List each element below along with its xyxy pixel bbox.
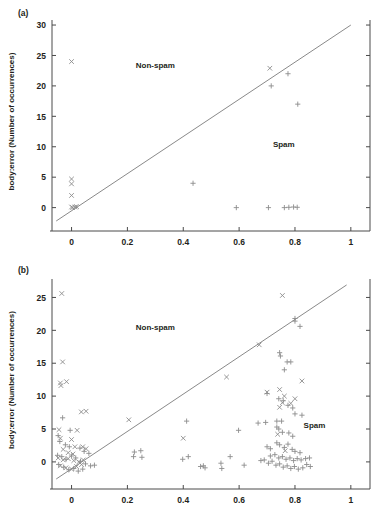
marker-plus bbox=[236, 428, 241, 433]
marker-plus bbox=[292, 411, 297, 416]
marker-plus bbox=[299, 413, 304, 418]
marker-plus bbox=[80, 467, 85, 472]
y-tick-label: 10 bbox=[37, 142, 47, 152]
marker-plus bbox=[278, 353, 283, 358]
scatter-plot-b: 051015202500.20.40.60.81body:error (Numb… bbox=[0, 263, 383, 526]
region-label-non-spam: Non-spam bbox=[136, 61, 175, 70]
marker-plus bbox=[299, 457, 304, 462]
panel-b: (b) 051015202500.20.40.60.81body:error (… bbox=[0, 263, 383, 526]
marker-x bbox=[59, 291, 64, 296]
marker-plus bbox=[68, 428, 73, 433]
x-tick-label: 0.8 bbox=[289, 237, 301, 247]
marker-plus bbox=[264, 391, 269, 396]
marker-plus bbox=[282, 367, 287, 372]
marker-plus bbox=[71, 466, 76, 471]
y-tick-label: 15 bbox=[37, 112, 47, 122]
y-axis-label: body:error (Number of occurrences) bbox=[7, 311, 16, 449]
x-tick-label: 1 bbox=[348, 237, 353, 247]
marker-x bbox=[69, 177, 74, 182]
y-tick-label: 5 bbox=[41, 172, 46, 182]
marker-plus bbox=[286, 205, 291, 210]
marker-plus bbox=[277, 461, 282, 466]
marker-plus bbox=[296, 467, 301, 472]
marker-plus bbox=[281, 398, 286, 403]
marker-plus bbox=[190, 181, 195, 186]
marker-plus bbox=[139, 455, 144, 460]
y-tick-label: 0 bbox=[41, 457, 46, 467]
marker-x bbox=[60, 360, 65, 365]
marker-plus bbox=[82, 449, 87, 454]
marker-x bbox=[79, 462, 84, 467]
marker-plus bbox=[295, 205, 300, 210]
marker-plus bbox=[292, 319, 297, 324]
region-label-non-spam: Non-spam bbox=[136, 323, 175, 332]
y-tick-label: 15 bbox=[37, 358, 47, 368]
y-tick-label: 5 bbox=[41, 424, 46, 434]
x-tick-label: 0.8 bbox=[289, 495, 301, 505]
marker-plus bbox=[280, 430, 285, 435]
marker-plus bbox=[263, 420, 268, 425]
marker-plus bbox=[256, 420, 261, 425]
marker-plus bbox=[300, 465, 305, 470]
marker-plus bbox=[290, 434, 295, 439]
y-tick-label: 20 bbox=[37, 81, 47, 91]
scatter-plot-a: 05101520253000.20.40.60.81body:error (Nu… bbox=[0, 0, 383, 263]
marker-plus bbox=[273, 463, 278, 468]
marker-x bbox=[69, 193, 74, 198]
marker-plus bbox=[285, 403, 290, 408]
y-tick-label: 0 bbox=[41, 203, 46, 213]
marker-x bbox=[73, 444, 78, 449]
marker-plus bbox=[287, 455, 292, 460]
marker-x bbox=[127, 417, 132, 422]
marker-plus bbox=[218, 461, 223, 466]
x-tick-label: 0 bbox=[69, 237, 74, 247]
series-non-spam bbox=[69, 59, 272, 210]
marker-x bbox=[75, 428, 80, 433]
y-axis-label: body:error (Number of occurrences) bbox=[7, 52, 16, 190]
marker-plus bbox=[198, 464, 203, 469]
marker-plus bbox=[277, 350, 282, 355]
marker-plus bbox=[88, 463, 93, 468]
marker-x bbox=[61, 447, 66, 452]
marker-plus bbox=[180, 457, 185, 462]
marker-plus bbox=[131, 454, 136, 459]
marker-plus bbox=[138, 448, 143, 453]
marker-x bbox=[66, 450, 71, 455]
x-tick-label: 0.2 bbox=[121, 495, 133, 505]
panel-a: (a) 05101520253000.20.40.60.81body:error… bbox=[0, 0, 383, 263]
marker-plus bbox=[307, 455, 312, 460]
x-tick-label: 0 bbox=[69, 495, 74, 505]
marker-plus bbox=[132, 449, 137, 454]
marker-x bbox=[224, 375, 229, 380]
marker-plus bbox=[60, 415, 65, 420]
marker-x bbox=[69, 182, 74, 187]
marker-plus bbox=[269, 83, 274, 88]
marker-plus bbox=[286, 430, 291, 435]
marker-x bbox=[280, 293, 285, 298]
y-tick-label: 20 bbox=[37, 326, 47, 336]
marker-plus bbox=[295, 102, 300, 107]
marker-plus bbox=[297, 450, 302, 455]
marker-plus bbox=[184, 419, 189, 424]
marker-x bbox=[283, 448, 288, 453]
marker-plus bbox=[303, 456, 308, 461]
marker-plus bbox=[59, 454, 64, 459]
marker-plus bbox=[285, 463, 290, 468]
marker-plus bbox=[285, 71, 290, 76]
marker-plus bbox=[268, 453, 273, 458]
marker-x bbox=[57, 427, 62, 432]
marker-plus bbox=[258, 458, 263, 463]
decision-boundary-line bbox=[56, 25, 351, 221]
marker-plus bbox=[86, 451, 91, 456]
marker-plus bbox=[262, 457, 267, 462]
marker-x bbox=[277, 387, 282, 392]
region-label-spam: Spam bbox=[304, 421, 326, 430]
marker-x bbox=[181, 436, 186, 441]
marker-x bbox=[277, 405, 282, 410]
x-tick-label: 1 bbox=[348, 495, 353, 505]
marker-x bbox=[69, 437, 74, 442]
marker-plus bbox=[290, 405, 295, 410]
marker-plus bbox=[279, 419, 284, 424]
marker-x bbox=[58, 436, 63, 441]
marker-plus bbox=[280, 454, 285, 459]
